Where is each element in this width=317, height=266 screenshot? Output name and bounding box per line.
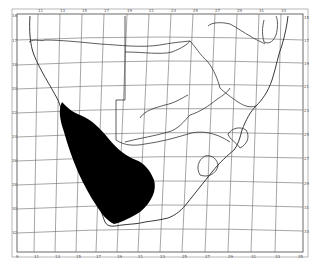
svg-text:26: 26 — [12, 158, 18, 163]
svg-text:17: 17 — [12, 38, 18, 43]
svg-text:13: 13 — [60, 8, 66, 13]
svg-text:29: 29 — [304, 181, 310, 186]
svg-text:11: 11 — [38, 8, 44, 13]
svg-text:29: 29 — [237, 8, 243, 13]
svg-text:22: 22 — [12, 110, 18, 115]
svg-text:16: 16 — [12, 13, 18, 18]
svg-text:33: 33 — [304, 229, 310, 234]
svg-text:31: 31 — [251, 254, 257, 259]
svg-text:21: 21 — [304, 84, 310, 89]
svg-text:20: 20 — [12, 86, 18, 91]
graticule-parallels — [17, 37, 303, 233]
svg-text:28: 28 — [12, 182, 18, 187]
svg-text:32: 32 — [12, 230, 18, 235]
svg-text:35: 35 — [298, 254, 304, 259]
right-tick-labels: 15 17 19 21 23 25 27 29 31 33 — [304, 15, 310, 234]
svg-text:15: 15 — [304, 15, 310, 20]
svg-text:17: 17 — [304, 38, 310, 43]
svg-text:19: 19 — [127, 8, 133, 13]
svg-text:17: 17 — [96, 254, 102, 259]
svg-text:25: 25 — [182, 254, 188, 259]
distribution-map: 11 13 15 17 19 21 23 25 27 29 31 33 9 11… — [0, 0, 317, 266]
svg-text:23: 23 — [171, 8, 177, 13]
svg-text:9: 9 — [16, 254, 19, 259]
svg-text:21: 21 — [138, 254, 144, 259]
svg-text:31: 31 — [304, 205, 310, 210]
bottom-tick-labels: 9 11 13 15 17 19 21 23 25 27 29 31 33 35 — [16, 254, 304, 259]
svg-text:31: 31 — [259, 8, 265, 13]
svg-text:17: 17 — [104, 8, 110, 13]
distribution-range — [60, 102, 155, 224]
svg-text:27: 27 — [304, 156, 310, 161]
svg-text:27: 27 — [215, 8, 221, 13]
svg-text:18: 18 — [12, 62, 18, 67]
svg-text:15: 15 — [76, 254, 82, 259]
svg-text:30: 30 — [12, 206, 18, 211]
svg-text:23: 23 — [304, 108, 310, 113]
svg-text:21: 21 — [149, 8, 155, 13]
svg-text:23: 23 — [160, 254, 166, 259]
svg-text:19: 19 — [304, 61, 310, 66]
svg-text:25: 25 — [193, 8, 199, 13]
svg-text:19: 19 — [117, 254, 123, 259]
svg-text:24: 24 — [12, 134, 18, 139]
svg-text:29: 29 — [228, 254, 234, 259]
svg-text:13: 13 — [55, 254, 61, 259]
svg-text:25: 25 — [304, 132, 310, 137]
country-borders — [29, 16, 278, 176]
svg-text:33: 33 — [281, 8, 287, 13]
svg-text:33: 33 — [275, 254, 281, 259]
svg-text:15: 15 — [82, 8, 88, 13]
svg-text:27: 27 — [205, 254, 211, 259]
svg-text:11: 11 — [34, 254, 40, 259]
